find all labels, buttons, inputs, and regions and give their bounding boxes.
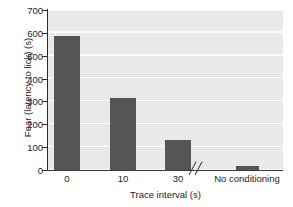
x-tick-label-30: 30 [173,173,184,184]
x-axis-tick-labels: 0 10 30 No conditioning [0,173,293,187]
x-tick-label-no-conditioning: No conditioning [214,173,280,184]
bar-trace-0 [54,36,80,170]
gridline [48,77,283,78]
y-tick-label: 500 [19,51,43,60]
gridline [48,100,283,101]
y-tick-label: 200 [19,120,43,129]
x-axis-title: Trace interval (s) [48,189,283,200]
gridline [48,123,283,124]
y-tick-label: 600 [19,28,43,37]
y-tick-label: 700 [19,6,43,15]
x-tick-label-10: 10 [118,173,129,184]
gridline [48,10,283,11]
x-axis-line [47,170,283,171]
gridline [48,54,283,55]
plot-area [48,10,283,170]
y-axis-tick-labels: 0 100 200 300 400 500 600 700 [19,10,43,170]
x-tick-label-0: 0 [64,173,69,184]
y-tick-label: 400 [19,74,43,83]
y-tick-label: 300 [19,97,43,106]
bar-chart-figure: Fear (latency to lick) (s) 0 100 200 300… [0,0,293,207]
gridline [48,31,283,32]
bar-trace-10 [110,98,136,170]
y-tick-label: 100 [19,143,43,152]
